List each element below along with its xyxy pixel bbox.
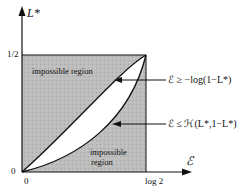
- diagram-canvas: [0, 0, 251, 195]
- x-tick-log2: log 2: [145, 177, 163, 186]
- upper-bound-equation: ℰ ≥ −log(1−L*): [168, 75, 231, 85]
- x-axis-label: ℰ: [186, 155, 193, 167]
- y-tick-zero: 0: [11, 167, 16, 176]
- lower-region-label-1: impossible: [90, 148, 127, 157]
- lower-region-label-2: region: [91, 158, 113, 167]
- lower-bound-equation: ℰ ≤ ℋ(L*,1−L*): [168, 119, 237, 129]
- y-tick-half: 1/2: [7, 50, 19, 59]
- x-tick-zero: 0: [24, 177, 29, 186]
- y-axis-label: L*: [27, 7, 40, 19]
- y-axis-arrow-icon: [19, 6, 26, 16]
- x-axis-arrow-icon: [182, 169, 192, 176]
- upper-region-label: impossible region: [32, 67, 93, 76]
